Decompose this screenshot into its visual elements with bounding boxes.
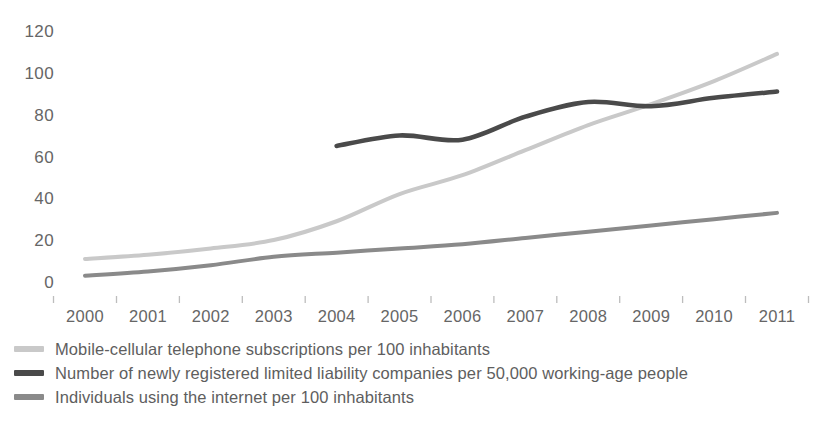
y-tick-label: 120 — [8, 22, 54, 42]
y-tick-label: 60 — [8, 148, 54, 168]
legend-item: Number of newly registered limited liabi… — [14, 361, 814, 385]
y-tick-label: 80 — [8, 106, 54, 126]
x-tick-label: 2008 — [556, 307, 620, 326]
x-tick-label: 2011 — [745, 307, 809, 326]
legend-swatch-companies — [14, 370, 44, 376]
legend-item-label: Individuals using the internet per 100 i… — [55, 388, 414, 407]
x-tick-label: 2010 — [682, 307, 746, 326]
y-tick-label: 0 — [8, 273, 54, 293]
series-line-mobile-subscriptions — [85, 54, 777, 259]
series-line-internet-users — [85, 213, 777, 276]
x-tick-label: 2007 — [493, 307, 557, 326]
legend-swatch-mobile — [14, 346, 44, 352]
chart-legend: Mobile-cellular telephone subscriptions … — [14, 337, 814, 409]
legend-swatch-internet — [14, 394, 44, 400]
legend-item-label: Number of newly registered limited liabi… — [55, 364, 688, 383]
y-tick-label: 100 — [8, 64, 54, 84]
x-tick-label: 2004 — [305, 307, 369, 326]
x-tick-label: 2002 — [179, 307, 243, 326]
legend-item: Individuals using the internet per 100 i… — [14, 385, 814, 409]
legend-item: Mobile-cellular telephone subscriptions … — [14, 337, 814, 361]
x-tick-label: 2001 — [116, 307, 180, 326]
x-axis-tick-marks — [54, 296, 809, 303]
x-tick-label: 2006 — [430, 307, 494, 326]
x-tick-label: 2009 — [619, 307, 683, 326]
line-chart-figure: 120100806040200 200020012002200320042005… — [0, 0, 827, 423]
y-tick-label: 20 — [8, 231, 54, 251]
legend-item-label: Mobile-cellular telephone subscriptions … — [55, 340, 490, 359]
y-tick-label: 40 — [8, 189, 54, 209]
x-tick-label: 2005 — [368, 307, 432, 326]
x-tick-label: 2003 — [242, 307, 306, 326]
x-tick-label: 2000 — [53, 307, 117, 326]
